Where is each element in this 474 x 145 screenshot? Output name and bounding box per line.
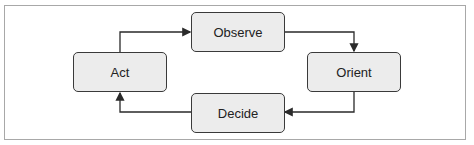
node-observe: Observe [191,12,285,52]
node-label: Decide [218,106,258,121]
node-decide: Decide [191,93,285,133]
node-label: Observe [213,25,262,40]
arrow-observe-to-orient [284,32,354,51]
node-act: Act [73,52,167,92]
arrow-decide-to-act [120,93,191,112]
arrow-act-to-observe [120,32,190,52]
node-label: Act [111,65,130,80]
node-orient: Orient [307,52,401,92]
node-label: Orient [336,65,371,80]
arrow-orient-to-decide [285,92,354,112]
